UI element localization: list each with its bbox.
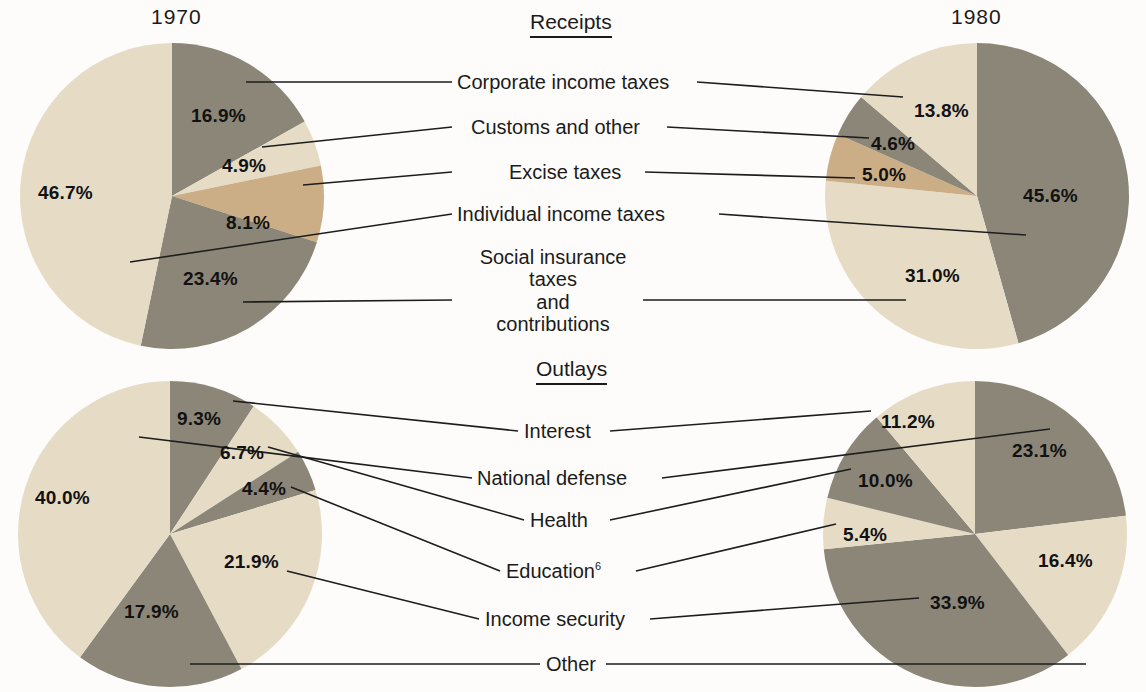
year-label-1980-top: 1980 bbox=[951, 5, 1002, 29]
pct-out1970-income-security: 21.9% bbox=[224, 551, 279, 573]
pct-out1980-health: 10.0% bbox=[858, 470, 913, 492]
label-social-insurance-line1: Social insurance taxes bbox=[480, 246, 627, 290]
budget-pie-figure: 1970 1980 Receipts Outlays Corporate inc… bbox=[0, 0, 1146, 692]
label-corporate-income-taxes: Corporate income taxes bbox=[457, 71, 669, 93]
label-national-defense: National defense bbox=[477, 467, 627, 489]
pie-charts-canvas bbox=[0, 0, 1146, 692]
label-education-text: Education bbox=[506, 560, 595, 582]
pct-out1980-national-defense: 23.1% bbox=[1012, 440, 1067, 462]
pie-outlays-1970 bbox=[18, 381, 322, 687]
pct-out1980-education: 5.4% bbox=[843, 524, 887, 546]
pct-out1970-other: 17.9% bbox=[124, 601, 179, 623]
pct-rec1970-individual: 46.7% bbox=[38, 182, 93, 204]
pie-receipts-1980 bbox=[825, 43, 1129, 349]
label-social-insurance-line3: contributions bbox=[496, 313, 609, 335]
pct-rec1970-customs: 4.9% bbox=[222, 155, 266, 177]
label-education-footnote: 6 bbox=[595, 560, 601, 572]
pct-out1980-other: 16.4% bbox=[1038, 550, 1093, 572]
label-income-security: Income security bbox=[485, 608, 625, 630]
year-label-1970-top: 1970 bbox=[151, 5, 202, 29]
label-other: Other bbox=[546, 653, 596, 675]
pct-rec1980-customs: 4.6% bbox=[871, 133, 915, 155]
section-title-receipts: Receipts bbox=[530, 10, 612, 38]
label-social-insurance-taxes: Social insurance taxes and contributions bbox=[463, 246, 643, 336]
pct-out1970-interest: 9.3% bbox=[177, 408, 221, 430]
pct-out1980-income-security: 33.9% bbox=[930, 592, 985, 614]
pct-rec1980-individual: 45.6% bbox=[1023, 185, 1078, 207]
pct-out1970-national-defense: 40.0% bbox=[35, 487, 90, 509]
pct-rec1970-corporate: 16.9% bbox=[191, 105, 246, 127]
pct-out1970-health: 6.7% bbox=[220, 442, 264, 464]
label-education: Education6 bbox=[506, 560, 601, 582]
label-customs-and-other: Customs and other bbox=[471, 116, 640, 138]
pct-rec1980-social-insurance: 31.0% bbox=[905, 265, 960, 287]
label-excise-taxes: Excise taxes bbox=[509, 161, 621, 183]
section-title-outlays: Outlays bbox=[536, 357, 607, 385]
pct-rec1980-excise: 5.0% bbox=[862, 164, 906, 186]
pct-rec1980-corporate: 13.8% bbox=[914, 100, 969, 122]
label-individual-income-taxes: Individual income taxes bbox=[457, 203, 665, 225]
pct-out1980-interest: 11.2% bbox=[881, 411, 935, 433]
pct-out1970-education: 4.4% bbox=[242, 478, 286, 500]
label-social-insurance-line2: and bbox=[536, 291, 569, 313]
pct-rec1970-excise: 8.1% bbox=[226, 212, 270, 234]
pct-rec1970-social-insurance: 23.4% bbox=[183, 268, 238, 290]
label-health: Health bbox=[530, 509, 588, 531]
label-interest: Interest bbox=[524, 420, 591, 442]
